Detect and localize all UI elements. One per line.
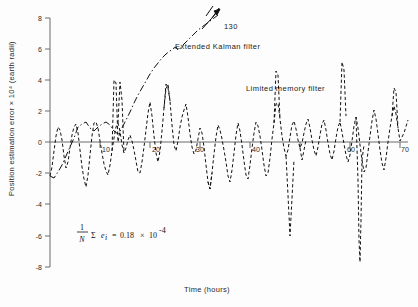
x-ticklabel-30: 30 bbox=[196, 146, 204, 153]
series-limited-memory-filter bbox=[50, 84, 408, 189]
y-ticklabel-m8: -8 bbox=[36, 264, 42, 271]
lmf-spike-down-36h bbox=[208, 173, 212, 189]
x-ticklabel-70: 70 bbox=[401, 146, 409, 153]
y-ticklabel-m4: -4 bbox=[36, 201, 42, 208]
chart-svg: 8 6 4 2 0 -2 -4 -6 -8 Position estimatio… bbox=[0, 0, 418, 307]
y-axis: 8 6 4 2 0 -2 -4 -6 -8 Position estimatio… bbox=[7, 15, 50, 271]
x-ticklabel-40: 40 bbox=[252, 146, 260, 153]
formula-power-base: 10 bbox=[149, 231, 157, 240]
formula-equals: = bbox=[112, 231, 117, 240]
lmf-spike-down-62h bbox=[356, 117, 364, 262]
lmf-spike-down-46h bbox=[286, 156, 294, 236]
formula-denominator: N bbox=[78, 235, 85, 244]
x-axis-title: Time (hours) bbox=[184, 285, 230, 294]
formula-power-exponent: -4 bbox=[159, 226, 166, 235]
formula-value: 0.18 bbox=[120, 231, 134, 240]
series-extended-kalman-filter bbox=[50, 15, 218, 178]
figure-container: 8 6 4 2 0 -2 -4 -6 -8 Position estimatio… bbox=[0, 0, 418, 307]
offscale-value-label: 130 bbox=[224, 22, 238, 31]
y-ticklabel-4: 4 bbox=[38, 77, 42, 84]
mean-error-formula: 1 N Σ e i = 0.18 × 10 -4 bbox=[77, 223, 166, 244]
y-ticklabel-8: 8 bbox=[38, 15, 42, 22]
x-ticklabel-10: 10 bbox=[102, 146, 110, 153]
y-ticklabel-0: 0 bbox=[38, 139, 42, 146]
label-limited-memory-filter: Limited memory filter bbox=[246, 84, 325, 93]
y-ticklabel-6: 6 bbox=[38, 46, 42, 53]
offscale-slash-1 bbox=[206, 6, 213, 16]
lmf-spike-up-58h bbox=[340, 62, 346, 122]
y-axis-title: Position estimation error × 10⁴ (earth r… bbox=[7, 41, 16, 196]
y-ticklabel-m6: -6 bbox=[36, 233, 42, 240]
formula-numerator: 1 bbox=[80, 223, 84, 232]
label-extended-kalman-filter: Extended Kalman filter bbox=[175, 42, 260, 51]
offscale-marker: 130 bbox=[202, 6, 238, 31]
lmf-spike-down-50h bbox=[300, 140, 306, 160]
formula-subscript: i bbox=[105, 233, 107, 242]
y-ticklabel-2: 2 bbox=[38, 108, 42, 115]
y-ticklabel-m2: -2 bbox=[36, 170, 42, 177]
formula-times-icon: × bbox=[140, 231, 145, 240]
x-axis: 10 20 30 40 60 70 Time (hours) bbox=[50, 142, 409, 294]
formula-sigma-icon: Σ bbox=[91, 231, 96, 240]
